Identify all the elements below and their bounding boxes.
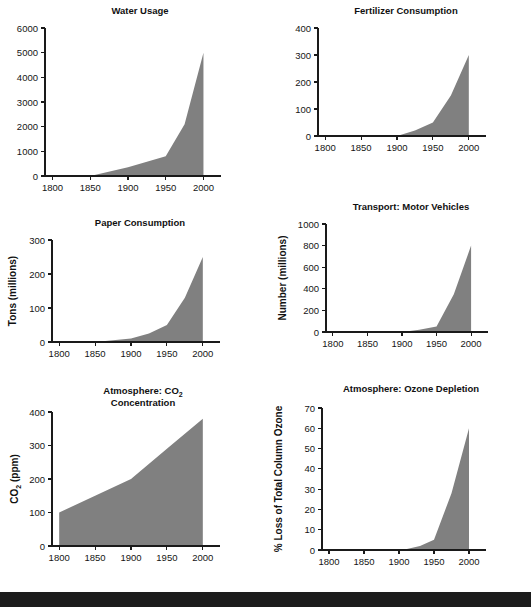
y-tick-label: 30 [304,484,315,495]
y-tick-label: 0 [310,545,315,556]
y-axis-label: % Loss of Total Column Ozone [273,405,284,552]
x-tick-label: 1900 [388,556,409,567]
x-tick-label: 1800 [49,348,70,359]
chart-panel-paper-consumption: Paper Consumption01002003001800185019001… [0,200,266,380]
x-tick-label: 1950 [156,348,177,359]
y-tick-label: 100 [29,303,45,314]
chart-panel-fertilizer-consumption: Fertilizer Consumption010020030040018001… [266,0,531,200]
y-tick-label: 100 [295,104,311,115]
y-tick-label: 20 [304,504,315,515]
y-tick-label: 1000 [298,219,319,230]
area-series [333,246,471,332]
area-series [325,55,469,136]
y-axis-label: Tons (millions) [7,256,18,326]
x-tick-label: 1850 [353,556,374,567]
x-tick-label: 1800 [322,338,343,349]
x-tick-label: 1850 [85,552,106,563]
y-tick-label: 6000 [17,23,38,34]
area-series [329,428,469,550]
y-tick-label: 10 [304,524,315,535]
y-tick-label: 100 [29,507,45,518]
x-tick-label: 1800 [49,552,70,563]
chart-title: Concentration [111,397,176,408]
x-tick-label: 1950 [422,142,443,153]
chart-title: Atmosphere: Ozone Depletion [343,383,479,394]
x-tick-label: 1950 [423,556,444,567]
y-tick-label: 300 [29,235,45,246]
y-axis-label: Number (millions) [277,235,288,320]
y-tick-label: 2000 [17,121,38,132]
y-tick-label: 600 [303,262,319,273]
chart-panel-atmosphere-co2-concentration: Atmosphere: CO2Concentration010020030040… [0,380,266,592]
y-tick-label: 300 [29,440,45,451]
x-tick-label: 1850 [80,182,101,193]
y-tick-label: 0 [33,171,38,182]
chart-grid: Water Usage01000200030004000500060001800… [0,0,531,592]
y-tick-label: 60 [304,423,315,434]
x-tick-label: 1900 [386,142,407,153]
x-tick-label: 1900 [391,338,412,349]
y-tick-label: 400 [29,407,45,418]
y-tick-label: 800 [303,240,319,251]
y-tick-label: 4000 [17,72,38,83]
x-tick-label: 1800 [42,182,63,193]
y-tick-label: 70 [304,403,315,414]
chart-panel-atmosphere-ozone-depletion: Atmosphere: Ozone Depletion0102030405060… [266,380,531,592]
chart-panel-transport-motor-vehicles: Transport: Motor Vehicles020040060080010… [266,200,531,380]
x-tick-label: 2000 [192,348,213,359]
y-tick-label: 5000 [17,47,38,58]
x-tick-label: 2000 [458,556,479,567]
x-tick-label: 1950 [426,338,447,349]
x-tick-label: 1850 [357,338,378,349]
x-tick-label: 1850 [85,348,106,359]
y-tick-label: 400 [303,283,319,294]
x-tick-label: 1800 [318,556,339,567]
x-tick-label: 1900 [117,182,138,193]
x-tick-label: 1950 [155,182,176,193]
y-tick-label: 200 [29,474,45,485]
x-tick-label: 1800 [315,142,336,153]
area-series [59,419,203,546]
x-tick-label: 2000 [192,552,213,563]
y-tick-label: 3000 [17,97,38,108]
chart-title: Water Usage [111,5,168,16]
x-tick-label: 2000 [193,182,214,193]
y-axis-label: CO2 (ppm) [9,454,22,503]
y-tick-label: 200 [29,269,45,280]
x-tick-label: 1850 [351,142,372,153]
y-tick-label: 0 [40,541,45,552]
y-tick-label: 1000 [17,146,38,157]
chart-title: Atmosphere: CO2 [103,385,182,398]
chart-title: Paper Consumption [95,217,185,228]
chart-title: Fertilizer Consumption [354,5,458,16]
y-tick-label: 300 [295,50,311,61]
area-series [59,257,203,342]
y-tick-label: 0 [306,131,311,142]
page-edge-shadow [0,592,531,607]
chart-title: Transport: Motor Vehicles [353,201,470,212]
y-tick-label: 0 [314,327,319,338]
x-tick-label: 1900 [120,348,141,359]
y-tick-label: 0 [40,337,45,348]
y-tick-label: 200 [303,305,319,316]
x-tick-label: 2000 [458,142,479,153]
area-series [53,53,204,176]
x-tick-label: 1950 [156,552,177,563]
x-tick-label: 2000 [461,338,482,349]
x-tick-label: 1900 [120,552,141,563]
y-tick-label: 400 [295,23,311,34]
y-tick-label: 50 [304,443,315,454]
y-tick-label: 40 [304,463,315,474]
chart-panel-water-usage: Water Usage01000200030004000500060001800… [0,0,266,200]
y-tick-label: 200 [295,77,311,88]
